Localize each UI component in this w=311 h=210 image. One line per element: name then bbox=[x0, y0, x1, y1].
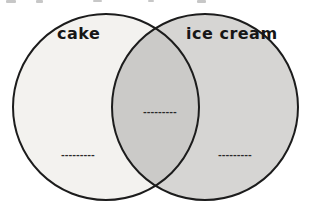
right-circle-label: ice cream bbox=[186, 24, 278, 43]
left-circle-label: cake bbox=[57, 24, 100, 43]
right-answer-blank: --------- bbox=[218, 150, 252, 160]
overlap-answer-blank: --------- bbox=[143, 107, 177, 117]
venn-diagram: cake ice cream --------- --------- -----… bbox=[0, 0, 311, 210]
left-answer-blank: --------- bbox=[61, 150, 95, 160]
